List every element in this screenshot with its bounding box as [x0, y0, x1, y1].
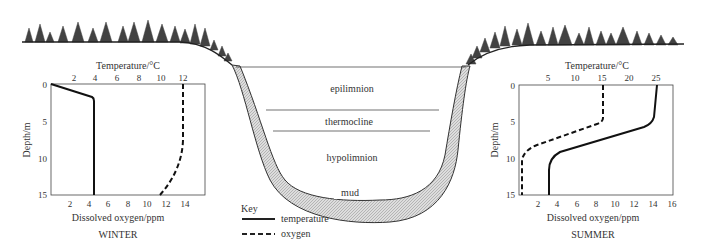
winter-temp-tick: 8 — [137, 73, 142, 83]
legend-title: Key — [241, 203, 258, 214]
winter-y-axis-label: Depth/m — [21, 122, 32, 157]
trees-left-icon — [25, 20, 232, 61]
summer-temp-tick: 20 — [625, 73, 635, 83]
summer-oxy-tick: 2 — [536, 199, 541, 209]
summer-oxy-tick: 14 — [649, 199, 659, 209]
summer-oxy-tick: 4 — [555, 199, 560, 209]
winter-oxy-tick: 8 — [126, 199, 131, 209]
winter-chart: Temperature/°C 2 4 6 8 10 12 0 5 10 15 2… — [21, 60, 205, 240]
legend-oxygen-label: oxygen — [281, 228, 310, 239]
summer-temp-tick: 10 — [571, 73, 581, 83]
winter-depth-tick: 0 — [43, 80, 48, 90]
winter-depth-tick: 15 — [38, 190, 48, 200]
winter-oxy-tick: 6 — [106, 199, 111, 209]
winter-oxy-tick: 12 — [162, 199, 171, 209]
winter-temp-tick: 10 — [157, 73, 167, 83]
winter-oxygen-line — [160, 84, 183, 195]
summer-oxy-tick: 6 — [575, 199, 580, 209]
summer-top-axis-label: Temperature/°C — [565, 60, 629, 71]
legend-temperature-label: temperature — [281, 213, 329, 224]
winter-temp-tick: 4 — [93, 73, 98, 83]
label-hypolimnion: hypolimnion — [326, 152, 377, 163]
summer-bottom-axis-label: Dissolved oxygen/ppm — [547, 212, 640, 223]
label-thermocline: thermocline — [325, 116, 373, 127]
winter-oxy-tick: 4 — [87, 199, 92, 209]
summer-oxy-tick: 12 — [630, 199, 639, 209]
summer-depth-tick: 15 — [506, 190, 516, 200]
label-epilimnion: epilimnion — [330, 83, 373, 94]
summer-oxy-tick: 8 — [594, 199, 599, 209]
summer-temp-tick: 15 — [598, 73, 608, 83]
summer-y-axis-label: Depth/m — [489, 122, 500, 157]
winter-temp-tick: 12 — [179, 73, 188, 83]
winter-oxy-tick: 2 — [68, 199, 73, 209]
summer-oxy-tick: 10 — [611, 199, 621, 209]
winter-top-axis-label: Temperature/°C — [96, 60, 160, 71]
label-mud: mud — [341, 187, 359, 198]
winter-oxy-tick: 10 — [143, 199, 153, 209]
winter-bottom-axis-label: Dissolved oxygen/ppm — [72, 212, 165, 223]
winter-depth-tick: 10 — [38, 154, 48, 164]
winter-temperature-line — [51, 84, 94, 195]
winter-temp-tick: 2 — [72, 73, 77, 83]
summer-temp-tick: 25 — [652, 73, 662, 83]
winter-oxy-tick: 14 — [181, 199, 191, 209]
trees-right-icon — [466, 23, 678, 64]
winter-depth-tick: 5 — [43, 117, 48, 127]
summer-chart: Temperature/°C 5 10 15 20 25 0 5 10 15 2… — [489, 60, 677, 240]
summer-depth-tick: 5 — [511, 117, 516, 127]
summer-depth-tick: 10 — [506, 154, 516, 164]
winter-title: WINTER — [99, 229, 138, 240]
lake-diagram: epilimnion thermocline hypolimnion mud K… — [0, 0, 714, 249]
summer-title: SUMMER — [571, 229, 615, 240]
winter-temp-tick: 6 — [115, 73, 120, 83]
summer-temp-tick: 5 — [546, 73, 551, 83]
summer-oxygen-line — [522, 85, 603, 195]
summer-oxy-tick: 16 — [668, 199, 678, 209]
summer-depth-tick: 0 — [511, 81, 516, 91]
